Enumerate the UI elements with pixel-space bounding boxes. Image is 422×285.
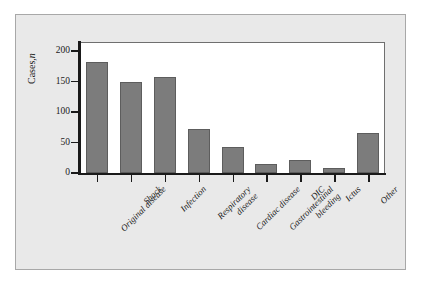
bar (188, 129, 210, 173)
y-axis-title-italic-n: n (26, 53, 37, 58)
y-axis-tick (71, 81, 78, 83)
bar (154, 77, 176, 173)
bar (289, 160, 311, 173)
x-axis-tick (199, 175, 201, 182)
x-axis-tick (334, 175, 336, 182)
x-axis-tick (97, 175, 99, 182)
y-axis-tick (71, 142, 78, 144)
y-axis-tick-label: 200 (44, 46, 70, 56)
x-axis-tick (131, 175, 133, 182)
bar (86, 62, 108, 174)
y-axis-tick (71, 111, 78, 113)
figure-bar-chart: Cases,n 050100150200 Original diseaseSho… (0, 0, 422, 285)
x-axis-tick (266, 175, 268, 182)
bar (323, 168, 345, 173)
y-axis-title: Cases,n (26, 53, 37, 84)
x-axis-tick (368, 175, 370, 182)
bar-series (80, 42, 385, 173)
y-axis-title-text: Cases, (26, 58, 37, 84)
bar (120, 82, 142, 173)
y-axis-tick (71, 50, 78, 52)
y-axis-tick-label: 0 (44, 168, 70, 178)
y-axis-tick-label: 50 (44, 138, 70, 148)
y-axis-tick (71, 172, 78, 174)
bar (357, 133, 379, 173)
bar (255, 164, 277, 173)
x-axis-tick (233, 175, 235, 182)
x-axis-tick (300, 175, 302, 182)
x-axis-tick (165, 175, 167, 182)
y-axis-tick-labels: 050100150200 (40, 0, 70, 285)
y-axis-tick-label: 100 (44, 107, 70, 117)
y-axis-tick-label: 150 (44, 77, 70, 87)
bar (222, 147, 244, 173)
